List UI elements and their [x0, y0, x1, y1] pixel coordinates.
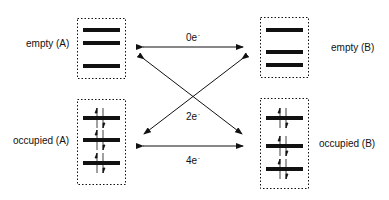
- orbital-level: [83, 161, 120, 165]
- box-empty-a: [78, 19, 126, 79]
- transfer-label-4e: 4e-: [186, 152, 200, 167]
- box-occupied-b: [261, 99, 309, 189]
- box-empty-b: [261, 18, 309, 78]
- label-empty-b: empty (B): [331, 42, 374, 54]
- orbital-level: [266, 50, 303, 54]
- orbital-level: [83, 116, 120, 120]
- transfer-label-0e: 0e-: [186, 29, 200, 44]
- orbital-level: [266, 167, 303, 171]
- orbital-level: [266, 144, 303, 148]
- orbital-level: [83, 28, 120, 32]
- label-occupied-a: occupied (A): [13, 135, 69, 147]
- box-occupied-a: [78, 100, 126, 185]
- orbital-level: [83, 64, 120, 68]
- label-empty-a: empty (A): [26, 38, 69, 50]
- orbital-level: [266, 63, 303, 67]
- orbital-level: [266, 28, 303, 32]
- orbital-level: [266, 116, 303, 120]
- transfer-arrows: [143, 47, 243, 146]
- transfer-label-2e: 2e-: [186, 108, 200, 123]
- label-occupied-b: occupied (B): [319, 138, 375, 150]
- orbital-level: [83, 41, 120, 45]
- orbital-level: [83, 138, 120, 142]
